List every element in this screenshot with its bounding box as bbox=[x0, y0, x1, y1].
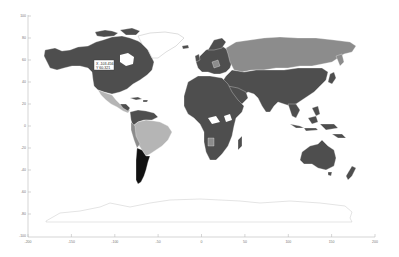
x-tick: -50 bbox=[156, 240, 161, 244]
region-australia[interactable] bbox=[300, 140, 336, 170]
x-tick: -100 bbox=[111, 240, 118, 244]
land-regions bbox=[44, 28, 356, 184]
region-southeast-asia[interactable] bbox=[288, 104, 300, 118]
region-russia[interactable] bbox=[226, 37, 356, 72]
x-tick: 150 bbox=[329, 240, 335, 244]
region-png[interactable] bbox=[332, 134, 346, 138]
region-new-zealand[interactable] bbox=[346, 166, 356, 180]
x-tick-labels: -200 -150 -100 -50 0 50 100 150 200 bbox=[24, 240, 377, 244]
region-uk[interactable] bbox=[182, 45, 200, 62]
datatip[interactable]: X -103.456 Y 60.321 bbox=[94, 60, 114, 70]
y-tick: -100 bbox=[19, 234, 26, 238]
region-caribbean[interactable] bbox=[130, 97, 148, 102]
y-tick: 80 bbox=[22, 36, 26, 40]
datatip-y: Y 60.321 bbox=[96, 66, 110, 70]
y-tick: 40 bbox=[22, 80, 26, 84]
y-tick: -80 bbox=[21, 212, 26, 216]
y-tick: 20 bbox=[22, 102, 26, 106]
x-tick: 50 bbox=[243, 240, 247, 244]
region-madagascar[interactable] bbox=[238, 136, 242, 150]
x-tick: 200 bbox=[372, 240, 378, 244]
y-tick: -40 bbox=[21, 168, 26, 172]
region-arctic-islands[interactable] bbox=[95, 28, 140, 37]
region-antarctica[interactable] bbox=[46, 199, 352, 222]
region-angola[interactable] bbox=[208, 138, 214, 146]
y-tick: -60 bbox=[21, 190, 26, 194]
y-tick-labels: 100 80 60 40 20 0 -20 -40 -60 -80 -100 bbox=[19, 14, 26, 238]
map-figure: 100 80 60 40 20 0 -20 -40 -60 -80 -100 -… bbox=[0, 0, 399, 257]
x-tick: 0 bbox=[201, 240, 203, 244]
y-tick: 0 bbox=[24, 124, 26, 128]
y-tick: 100 bbox=[20, 14, 26, 18]
region-far-east[interactable] bbox=[336, 54, 344, 66]
y-tick: 60 bbox=[22, 58, 26, 62]
region-japan[interactable] bbox=[328, 72, 336, 84]
y-tick: -20 bbox=[21, 146, 26, 150]
x-tick: -200 bbox=[24, 240, 31, 244]
x-tick: 100 bbox=[285, 240, 291, 244]
x-tick: -150 bbox=[68, 240, 75, 244]
region-tasmania[interactable] bbox=[328, 172, 332, 176]
